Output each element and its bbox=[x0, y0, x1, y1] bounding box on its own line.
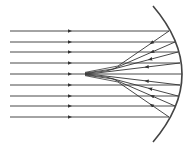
reflected-ray bbox=[152, 42, 175, 52]
reflected-ray bbox=[147, 63, 181, 67]
reflected-ray bbox=[147, 81, 181, 85]
reflected-ray bbox=[152, 31, 170, 43]
reflected-ray bbox=[152, 96, 175, 106]
incident-rays bbox=[10, 31, 182, 117]
reflected-ray bbox=[150, 52, 178, 59]
ray-diagram bbox=[0, 0, 194, 149]
reflected-ray bbox=[152, 105, 170, 117]
reflected-ray bbox=[150, 89, 178, 96]
